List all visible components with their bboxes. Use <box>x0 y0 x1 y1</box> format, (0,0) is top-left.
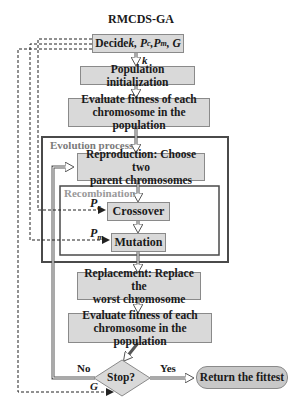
evaluate1-line1: Evaluate fitness of each <box>81 93 196 106</box>
return-fittest-box: Return the fittest <box>196 366 288 389</box>
reproduction-line2: parent chromosomes <box>90 174 192 187</box>
replacement-line2: worst chromosome <box>93 293 186 306</box>
diagram-title: RMCDS-GA <box>108 12 174 27</box>
pc-sub: c <box>97 203 101 212</box>
no-edge-label: No <box>77 362 90 374</box>
evaluate2-line2: chromosome in the population <box>69 322 211 348</box>
decide-pm: ,P <box>151 37 161 50</box>
mutation-box: Mutation <box>111 233 166 252</box>
pc-edge-label: Pc <box>90 196 101 212</box>
stop-decision-label: Stop? <box>107 371 135 383</box>
replacement-line1: Replacement: Replace the <box>78 267 200 293</box>
decide-k-pc: k, P <box>128 37 147 50</box>
evaluate1-line2: chromosome in the population <box>69 106 209 132</box>
g-edge-label: G <box>90 380 98 392</box>
decide-parameters-box: Decide k, Pc ,Pm , G <box>92 34 184 53</box>
evaluate2-line1: Evaluate fitness of each <box>82 309 197 322</box>
crossover-box: Crossover <box>107 202 170 221</box>
replacement-box: Replacement: Replace the worst chromosom… <box>77 272 201 300</box>
pm-edge-label: Pm <box>90 226 104 242</box>
population-initialization-box: Population initialization <box>80 66 195 85</box>
reproduction-box: Reproduction: Choose two parent chromoso… <box>77 153 205 181</box>
evaluate-fitness-box-2: Evaluate fitness of each chromosome in t… <box>68 313 212 343</box>
pm-sub: m <box>97 233 103 242</box>
reproduction-line1: Reproduction: Choose two <box>78 148 204 174</box>
decide-label: Decide <box>95 37 128 50</box>
decide-g: , G <box>167 37 181 50</box>
evaluate-fitness-box-1: Evaluate fitness of each chromosome in t… <box>68 98 210 127</box>
yes-edge-label: Yes <box>160 362 176 374</box>
